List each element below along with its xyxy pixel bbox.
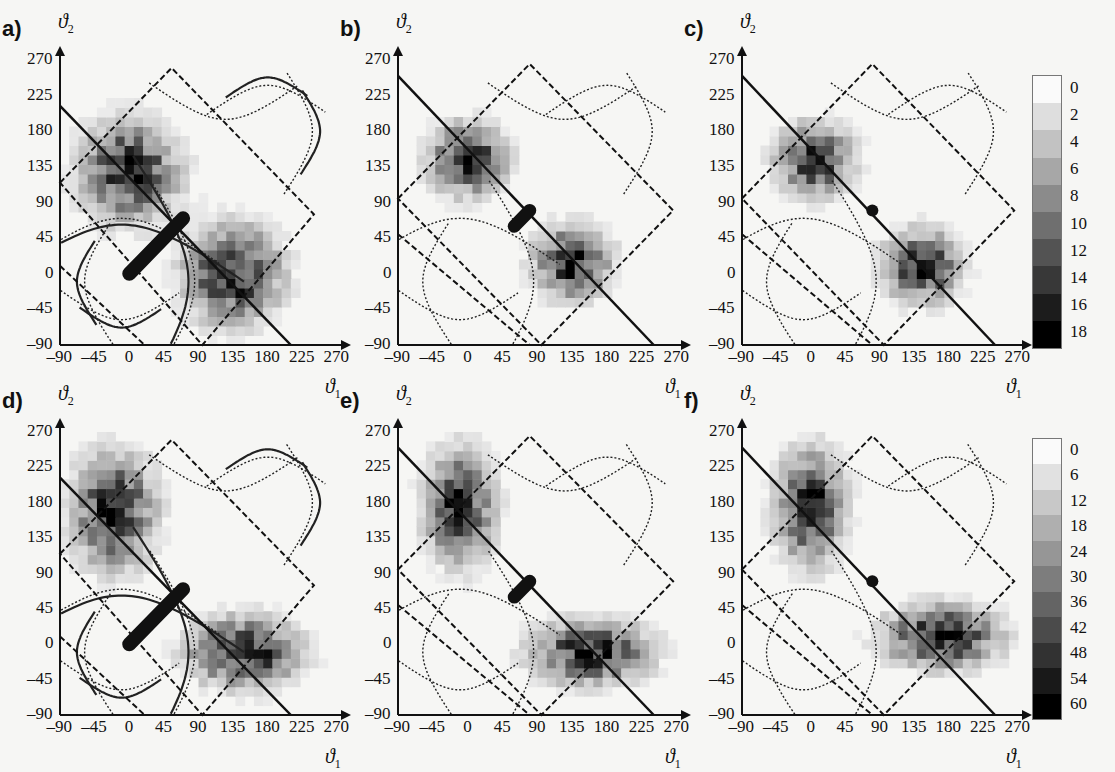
y-tick-label: –90	[365, 334, 391, 354]
y-tick-label: –90	[27, 704, 53, 724]
colorbar-tick-label: 54	[1070, 669, 1087, 689]
y-tick-label: 45	[374, 227, 391, 247]
heatmap-plot-f	[742, 422, 1038, 725]
y-axis-label-a: ϑ2	[58, 10, 74, 37]
y-tick-label: 0	[727, 263, 736, 283]
y-tick-label: 225	[365, 456, 391, 476]
heatmap-plot-c	[742, 50, 1038, 355]
y-tick-label: –45	[27, 669, 53, 689]
y-tick-label: 45	[36, 227, 53, 247]
y-axis-label-d: ϑ2	[58, 382, 74, 409]
y-axis-label-b: ϑ2	[396, 10, 412, 37]
y-tick-label: –45	[365, 298, 391, 318]
colorbar-tick-label: 0	[1070, 440, 1079, 460]
y-tick-label: –90	[27, 334, 53, 354]
heatmap-plot-d	[60, 422, 357, 725]
y-tick-label: 135	[27, 156, 53, 176]
y-tick-label: 0	[45, 633, 54, 653]
y-tick-label: 225	[27, 85, 53, 105]
colorbar-tick-label: 10	[1070, 214, 1087, 234]
y-tick-label: 0	[383, 633, 392, 653]
panel-label-a: a)	[2, 16, 22, 42]
y-tick-label: 90	[718, 192, 735, 212]
colorbar-tick-label: 6	[1070, 465, 1079, 485]
panel-label-c: c)	[684, 16, 704, 42]
y-tick-label: –45	[27, 298, 53, 318]
panel-label-f: f)	[684, 388, 699, 414]
colorbar-tick-label: 12	[1070, 491, 1087, 511]
colorbar-tick-label: 18	[1070, 516, 1087, 536]
colorbar-tick-label: 36	[1070, 592, 1087, 612]
x-axis-label-f: ϑ1	[1006, 745, 1022, 772]
colorbar-tick-label: 18	[1070, 322, 1087, 342]
y-tick-label: 180	[365, 492, 391, 512]
y-tick-label: 135	[709, 156, 735, 176]
y-tick-label: –45	[709, 669, 735, 689]
colorbar-tick-label: 48	[1070, 643, 1087, 663]
panel-label-e: e)	[340, 388, 360, 414]
y-tick-label: 225	[709, 85, 735, 105]
y-axis-label-c: ϑ2	[740, 10, 756, 37]
colorbar-bottom	[1032, 438, 1062, 720]
colorbar-tick-label: 8	[1070, 186, 1079, 206]
heatmap-plot-e	[398, 422, 697, 725]
y-tick-label: –90	[709, 704, 735, 724]
colorbar-tick-label: 24	[1070, 542, 1087, 562]
x-axis-label-c: ϑ1	[1006, 375, 1022, 402]
colorbar-tick-label: 4	[1070, 132, 1079, 152]
y-tick-label: 0	[727, 633, 736, 653]
heatmap-plot-a	[60, 50, 357, 355]
y-tick-label: –90	[365, 704, 391, 724]
y-tick-label: –45	[365, 669, 391, 689]
y-tick-label: 270	[365, 49, 391, 69]
y-tick-label: 180	[709, 492, 735, 512]
y-tick-label: 135	[27, 527, 53, 547]
y-tick-label: 270	[365, 421, 391, 441]
y-tick-label: 90	[374, 192, 391, 212]
y-tick-label: –90	[709, 334, 735, 354]
y-tick-label: 270	[27, 49, 53, 69]
colorbar-tick-label: 0	[1070, 78, 1079, 98]
y-tick-label: 45	[374, 598, 391, 618]
y-tick-label: 90	[36, 563, 53, 583]
colorbar-tick-label: 12	[1070, 241, 1087, 261]
x-axis-label-a: ϑ1	[325, 375, 341, 402]
y-tick-label: 180	[365, 120, 391, 140]
colorbar-tick-label: 6	[1070, 159, 1079, 179]
y-tick-label: 225	[27, 456, 53, 476]
y-tick-label: 180	[709, 120, 735, 140]
x-axis-label-d: ϑ1	[325, 745, 341, 772]
y-tick-label: 270	[27, 421, 53, 441]
y-tick-label: 45	[718, 598, 735, 618]
panel-label-d: d)	[2, 388, 23, 414]
y-tick-label: 135	[365, 527, 391, 547]
y-tick-label: 45	[36, 598, 53, 618]
y-tick-label: 135	[709, 527, 735, 547]
y-tick-label: 225	[365, 85, 391, 105]
x-axis-label-e: ϑ1	[665, 745, 681, 772]
y-tick-label: 270	[709, 421, 735, 441]
panel-label-b: b)	[340, 16, 361, 42]
colorbar-tick-label: 42	[1070, 618, 1087, 638]
colorbar-tick-label: 16	[1070, 295, 1087, 315]
y-tick-label: 225	[709, 456, 735, 476]
y-tick-label: 180	[27, 120, 53, 140]
colorbar-tick-label: 30	[1070, 567, 1087, 587]
y-tick-label: 90	[718, 563, 735, 583]
y-tick-label: 45	[718, 227, 735, 247]
y-tick-label: 90	[36, 192, 53, 212]
y-axis-label-f: ϑ2	[740, 382, 756, 409]
y-tick-label: 135	[365, 156, 391, 176]
y-tick-label: 0	[45, 263, 54, 283]
x-axis-label-b: ϑ1	[665, 375, 681, 402]
colorbar-tick-label: 2	[1070, 105, 1079, 125]
y-tick-label: 0	[383, 263, 392, 283]
colorbar-top	[1032, 75, 1062, 349]
colorbar-tick-label: 14	[1070, 268, 1087, 288]
colorbar-tick-label: 60	[1070, 694, 1087, 714]
y-tick-label: –45	[709, 298, 735, 318]
y-tick-label: 90	[374, 563, 391, 583]
y-axis-label-e: ϑ2	[396, 382, 412, 409]
y-tick-label: 180	[27, 492, 53, 512]
heatmap-plot-b	[398, 50, 697, 355]
